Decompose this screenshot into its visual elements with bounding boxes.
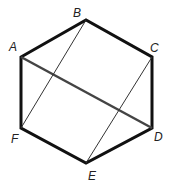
diagonal-bf — [21, 20, 86, 128]
label-e: E — [88, 169, 97, 183]
label-b: B — [73, 6, 81, 20]
label-a: A — [8, 40, 17, 54]
label-f: F — [11, 132, 19, 146]
label-c: C — [150, 41, 159, 55]
hexagon-diagram: A B C D E F — [0, 0, 169, 184]
diagonal-ad — [21, 57, 152, 128]
label-d: D — [154, 130, 163, 144]
